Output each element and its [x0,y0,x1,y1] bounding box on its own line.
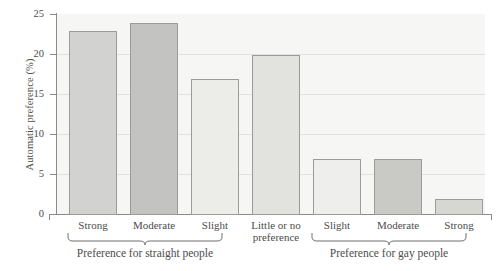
x-label-moderate-gay: Moderate [363,219,433,231]
x-label-little-or-no-preference-line2: preference [236,231,316,243]
brace-straight-group [66,233,224,245]
bar-strong-gay[interactable] [435,199,483,215]
x-label-moderate-straight: Moderate [119,219,189,231]
bar-slight-gay[interactable] [313,159,361,215]
x-label-slight-gay: Slight [302,219,372,231]
x-label-strong-gay: Strong [424,219,494,231]
bar-chart-figure: Automatic preference (%) 25 20 15 10 5 0… [0,0,503,271]
x-label-strong-straight: Strong [58,219,128,231]
bar-little-or-no-preference[interactable] [252,55,300,215]
bar-moderate-straight[interactable] [130,23,178,215]
bar-moderate-gay[interactable] [374,159,422,215]
group-label-straight: Preference for straight people [66,247,224,259]
group-label-gay: Preference for gay people [310,247,468,259]
bar-slight-straight[interactable] [191,79,239,215]
brace-gay-group [310,233,468,245]
bar-strong-straight[interactable] [69,31,117,215]
